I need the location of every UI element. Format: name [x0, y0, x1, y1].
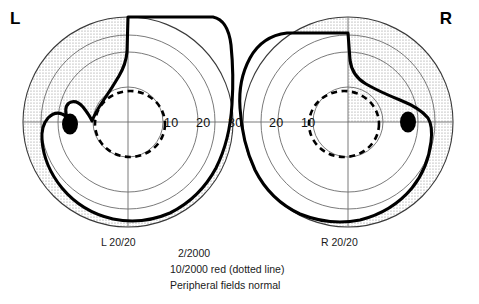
perimetry-chart-container: L 10 20 30 L 20/20 R 20 10: [0, 0, 479, 304]
right-eye-chart: R 20 10 R 20/20: [240, 9, 453, 248]
left-eye-chart: L 10 20 30 L 20/20: [10, 9, 242, 248]
right-tick-20: 20: [269, 116, 283, 130]
caption-block: 2/2000 10/2000 red (dotted line) Periphe…: [170, 247, 284, 291]
left-tick-20: 20: [196, 116, 210, 130]
left-blind-spot: [62, 114, 78, 135]
caption-line-2: 10/2000 red (dotted line): [170, 263, 284, 275]
right-eye-letter: R: [440, 9, 452, 28]
caption-line-3: Peripheral fields normal: [170, 279, 280, 291]
right-tick-10: 10: [301, 116, 315, 130]
caption-line-1: 2/2000: [178, 247, 210, 259]
right-acuity-label: R 20/20: [321, 236, 358, 248]
right-blind-spot: [400, 112, 416, 133]
visual-field-svg: L 10 20 30 L 20/20 R 20 10: [0, 0, 479, 304]
left-acuity-label: L 20/20: [101, 236, 136, 248]
left-tick-10: 10: [164, 116, 178, 130]
left-eye-letter: L: [10, 9, 20, 28]
